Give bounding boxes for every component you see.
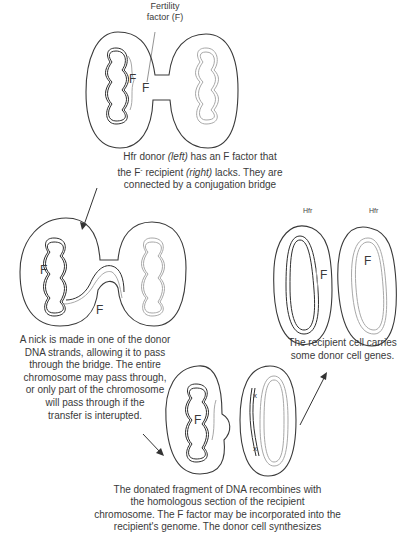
caption-step2-line: chromosome may pass through,	[0, 372, 190, 385]
f-label-stage2-donor: F	[40, 263, 47, 277]
caption-step1-line3: connected by a conjugation bridge	[100, 179, 300, 192]
caption-step1: Hfr donor (left) has an F factor that th…	[100, 151, 300, 192]
x-marker-bottom: x	[253, 444, 257, 453]
f-label-stage4-left: F	[320, 268, 327, 282]
f-label-stage2-transfer: F	[96, 303, 103, 317]
caption-step3-line: the homologous section of the recipient	[75, 496, 360, 508]
caption-step1-line1: Hfr donor (left) has an F factor that	[100, 151, 300, 164]
f-label-factor: F	[142, 81, 149, 95]
arrow-step1-to-step2	[84, 188, 97, 225]
caption-step2-line: or only part of the chromosome	[0, 384, 190, 397]
caption-step2-line: transfer is interupted.	[0, 410, 190, 423]
fertility-label-line2: factor (F)	[135, 12, 195, 23]
caption-step2-line: A nick is made in one of the donor	[0, 334, 190, 347]
hfr-label-right: Hfr	[369, 207, 378, 214]
stage4-cells	[274, 226, 397, 346]
caption-step2-line: DNA strands, allowing it to pass	[0, 347, 190, 360]
caption-step4: The recipient cell carries some donor ce…	[280, 337, 405, 362]
caption-step2-line: will pass through if the	[0, 397, 190, 410]
arrow-step2-to-step3	[143, 434, 160, 452]
stage1-cells	[86, 32, 238, 148]
donor-cell-outline	[86, 32, 238, 148]
caption-step3-line: The donated fragment of DNA recombines w…	[75, 484, 360, 496]
f-label-donor: F	[129, 72, 136, 86]
caption-step4-line: some donor cell genes.	[280, 350, 405, 363]
f-label-stage4-right: F	[364, 254, 371, 268]
f-label-stage3: F	[194, 413, 201, 427]
caption-step3-line: recipient's genome. The donor cell synth…	[75, 521, 360, 533]
caption-step2: A nick is made in one of the donor DNA s…	[0, 334, 190, 422]
fertility-factor-label: Fertility factor (F)	[135, 1, 195, 23]
caption-step3-line: chromosome. The F factor may be incorpor…	[75, 509, 360, 521]
fertility-label-line1: Fertility	[135, 1, 195, 12]
x-marker-top: x	[253, 391, 257, 400]
arrow-step3-to-step4	[300, 378, 324, 425]
hfr-label-left: Hfr	[303, 207, 312, 214]
caption-step4-line: The recipient cell carries	[280, 337, 405, 350]
caption-step2-line: through the bridge. The entire	[0, 359, 190, 372]
caption-step1-line2: the F- recipient (right) lacks. They are	[100, 164, 300, 180]
caption-step3: The donated fragment of DNA recombines w…	[75, 484, 360, 534]
